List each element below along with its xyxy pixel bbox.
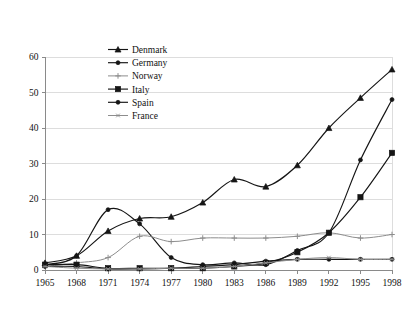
series-line-norway — [45, 233, 392, 267]
x-tick-label: 1998 — [383, 278, 402, 288]
series-marker-italy-1998 — [389, 150, 394, 155]
series-marker-italy-1995 — [358, 195, 363, 200]
y-tick-label: 30 — [29, 159, 39, 169]
x-tick-label: 1983 — [225, 278, 244, 288]
y-tick-label: 20 — [29, 194, 39, 204]
legend-label-norway: Norway — [132, 71, 163, 81]
chart-legend: DenmarkGermanyNorwayItalySpainFrance — [108, 45, 168, 121]
x-tick-label: 1992 — [319, 278, 338, 288]
series-marker-italy-1989 — [295, 250, 300, 255]
series-marker-germany-1995 — [358, 158, 362, 162]
legend-label-italy: Italy — [132, 85, 150, 95]
x-tick-label: 1974 — [130, 278, 149, 288]
series-marker-germany-1971 — [106, 208, 110, 212]
legend-label-germany: Germany — [132, 58, 168, 68]
legend-label-france: France — [132, 111, 158, 121]
series-denmark — [42, 66, 395, 265]
series-italy — [42, 150, 394, 271]
x-axis-ticks — [45, 270, 392, 274]
legend-entry-italy[interactable]: Italy — [108, 85, 150, 95]
legend-entry-germany[interactable]: Germany — [108, 58, 168, 68]
x-tick-label: 1971 — [99, 278, 118, 288]
y-axis-tick-labels: 0102030405060 — [29, 52, 45, 275]
gridlines — [45, 57, 392, 235]
series-marker-denmark-1971 — [105, 228, 111, 234]
series-marker-germany-1998 — [390, 98, 394, 102]
legend-entry-france[interactable]: France — [108, 111, 158, 121]
series-line-germany — [45, 100, 392, 266]
x-tick-label: 1980 — [193, 278, 212, 288]
legend-entry-norway[interactable]: Norway — [108, 71, 163, 81]
x-tick-label: 1968 — [67, 278, 86, 288]
x-tick-label: 1989 — [288, 278, 307, 288]
x-tick-label: 1995 — [351, 278, 370, 288]
series-france — [42, 256, 394, 271]
x-tick-label: 1986 — [256, 278, 275, 288]
x-tick-label: 1977 — [162, 278, 181, 288]
legend-marker-germany — [116, 61, 120, 65]
series-marker-denmark-1998 — [389, 66, 395, 72]
legend-label-denmark: Denmark — [132, 45, 168, 55]
legend-marker-italy — [115, 87, 120, 92]
series-marker-denmark-1980 — [200, 200, 206, 206]
x-tick-label: 1965 — [36, 278, 55, 288]
y-tick-label: 50 — [29, 88, 39, 98]
series-marker-italy-1992 — [326, 230, 331, 235]
legend-entry-denmark[interactable]: Denmark — [108, 45, 168, 55]
y-tick-label: 0 — [34, 265, 39, 275]
legend-entry-spain[interactable]: Spain — [108, 98, 154, 108]
series-marker-germany-1974 — [138, 222, 142, 226]
legend-marker-spain — [116, 100, 120, 104]
legend-label-spain: Spain — [132, 98, 154, 108]
y-tick-label: 10 — [29, 230, 39, 240]
series-layer — [42, 66, 395, 271]
y-tick-label: 40 — [29, 123, 39, 133]
line-chart: 0102030405060 19651968197119741977198019… — [0, 0, 408, 309]
chart-canvas: 0102030405060 19651968197119741977198019… — [0, 0, 408, 309]
y-tick-label: 60 — [29, 52, 39, 62]
series-marker-germany-1968 — [75, 254, 79, 258]
x-axis-tick-labels: 1965196819711974197719801983198619891992… — [36, 278, 402, 288]
series-marker-germany-1977 — [169, 256, 173, 260]
series-norway — [42, 230, 395, 269]
